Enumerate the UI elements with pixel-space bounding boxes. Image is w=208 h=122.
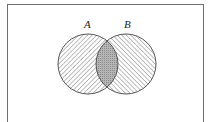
venn-diagram: A B [0, 0, 208, 122]
set-a-label: A [83, 18, 91, 30]
set-b-label: B [124, 18, 131, 30]
